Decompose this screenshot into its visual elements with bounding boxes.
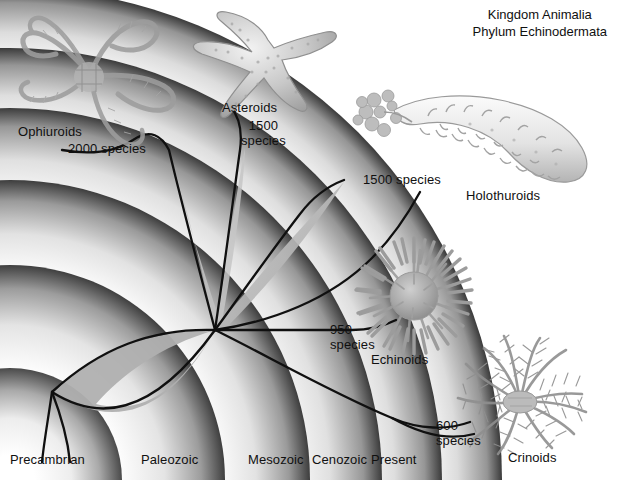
echinoderm-phylogeny-figure: Kingdom Animalia Phylum Echinodermata Op… [0, 0, 621, 485]
class-label-echinoids: Echinoids [371, 352, 428, 367]
species-count-echinoids: 950 species [330, 322, 375, 352]
era-label-precambrian: Precambrian [10, 452, 85, 467]
taxonomy-header: Kingdom Animalia Phylum Echinodermata [473, 6, 607, 40]
species-count-ophiuroids: 2000 species [68, 141, 146, 156]
species-count-crinoids: 600 species [436, 418, 481, 448]
class-label-ophiuroids: Ophiuroids [18, 124, 82, 139]
species-count-asteroids: 1500 species [241, 118, 286, 148]
kingdom-label: Kingdom Animalia [473, 6, 607, 23]
era-label-paleozoic: Paleozoic [141, 452, 198, 467]
diagram-canvas [0, 0, 621, 485]
era-label-cenozoic: Cenozoic [312, 452, 367, 467]
era-label-present: Present [371, 452, 417, 467]
class-label-holothuroids: Holothuroids [466, 188, 540, 203]
class-label-asteroids: Asteroids [222, 100, 277, 115]
phylum-label: Phylum Echinodermata [473, 23, 607, 40]
species-count-holothuroids: 1500 species [363, 172, 441, 187]
class-label-crinoids: Crinoids [508, 450, 556, 465]
era-label-mesozoic: Mesozoic [248, 452, 304, 467]
